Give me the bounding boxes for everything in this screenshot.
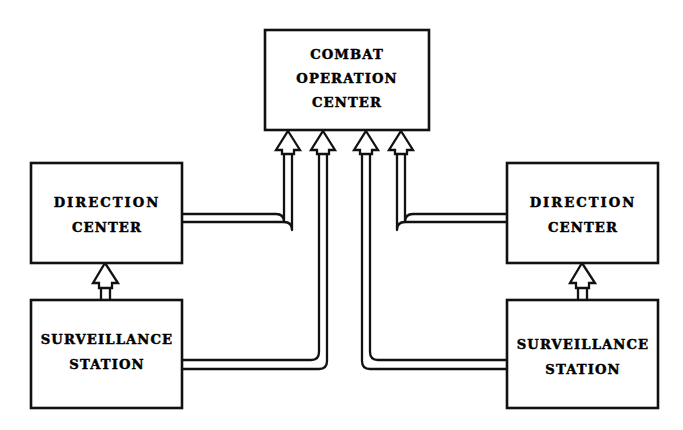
pipe-inner-edge [182, 152, 292, 230]
connector-direction-center-left-to-coc [182, 152, 292, 230]
pipe-outer-edge [370, 152, 507, 360]
arrowhead-direction-center-right-local [570, 263, 595, 288]
node-box-outline [507, 163, 658, 263]
connector-surveillance-station-right-to-coc [362, 152, 507, 369]
node-label-line-1: DIRECTION [530, 195, 637, 210]
connector-direction-center-right-to-coc [397, 152, 507, 230]
node-surveillance-station-right[interactable]: SURVEILLANCE STATION [507, 300, 658, 408]
pipe-inner-edge [362, 152, 507, 369]
node-label-line-2: STATION [69, 357, 144, 372]
connector-surveillance-station-left-to-coc [182, 152, 327, 369]
arrowhead-surveillance-station-left [311, 131, 335, 154]
node-box-outline [31, 163, 182, 263]
pipe-outer-edge [182, 152, 284, 222]
node-label-line-1: DIRECTION [54, 195, 161, 210]
node-box-outline [31, 300, 182, 408]
node-surveillance-station-left[interactable]: SURVEILLANCE STATION [31, 300, 182, 408]
node-label-line-1: SURVEILLANCE [517, 337, 650, 352]
diagram-canvas: COMBAT OPERATION CENTER DIRECTION CENTER… [0, 0, 683, 430]
node-label-line-2: STATION [545, 362, 620, 377]
node-label-line-1: SURVEILLANCE [41, 332, 174, 347]
node-label-line-1: COMBAT [310, 47, 384, 62]
arrowhead-direction-center-left-local [93, 263, 118, 288]
arrowhead-surveillance-station-right [354, 131, 378, 154]
arrowhead-direction-center-right [389, 131, 413, 154]
node-direction-center-right[interactable]: DIRECTION CENTER [507, 163, 658, 263]
node-box-outline [507, 300, 658, 408]
pipe-outer-edge [182, 152, 319, 360]
pipe-outer-edge [405, 152, 507, 222]
node-label-line-2: CENTER [72, 220, 142, 235]
block-diagram: COMBAT OPERATION CENTER DIRECTION CENTER… [0, 0, 683, 430]
node-label-line-3: CENTER [312, 95, 382, 110]
arrowhead-direction-center-left [276, 131, 300, 154]
pipe-inner-edge [182, 152, 327, 369]
pipe-inner-edge [397, 152, 507, 230]
node-combat-operation-center[interactable]: COMBAT OPERATION CENTER [265, 30, 429, 130]
node-direction-center-left[interactable]: DIRECTION CENTER [31, 163, 182, 263]
node-label-line-2: CENTER [548, 220, 618, 235]
node-label-line-2: OPERATION [296, 71, 397, 86]
